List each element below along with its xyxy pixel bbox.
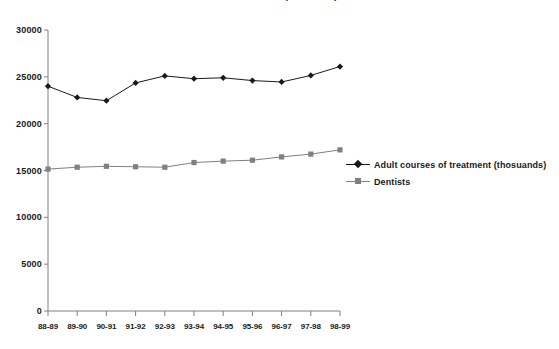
y-axis-tick-label: 0 (37, 306, 42, 316)
chart-legend: Adult courses of treatment (thosuands)De… (346, 157, 556, 191)
x-axis-tick-label: 94-95 (213, 322, 233, 331)
legend-item-2[interactable]: Dentists (346, 174, 556, 189)
plot-area (48, 30, 340, 311)
data-point-marker[interactable] (75, 165, 80, 170)
x-axis-tick-label: 98-99 (330, 322, 350, 331)
data-point-marker[interactable] (191, 160, 196, 165)
x-axis-tick-label: 97-98 (301, 322, 321, 331)
data-point-marker[interactable] (191, 76, 197, 82)
x-axis-tick-label: 96-97 (272, 322, 292, 331)
legend-key-diamond-icon (346, 159, 370, 170)
data-point-marker[interactable] (45, 83, 51, 89)
plot-svg (48, 30, 340, 311)
legend-key-square-icon (346, 176, 370, 187)
legend-key-marker (354, 160, 362, 168)
data-point-marker[interactable] (133, 164, 138, 169)
chart-container: Adult courses of treatment (thousands) a… (0, 0, 559, 349)
chart-title: Adult courses of treatment (thousands) a… (0, 0, 559, 1)
y-axis-tick-label: 5000 (21, 259, 42, 269)
legend-item-1[interactable]: Adult courses of treatment (thosuands) (346, 157, 556, 172)
y-axis-tick-label: 30000 (16, 25, 42, 35)
data-point-marker[interactable] (220, 75, 226, 81)
x-axis-tick-label: 91-92 (126, 322, 146, 331)
legend-label: Dentists (374, 177, 410, 187)
data-point-marker[interactable] (162, 165, 167, 170)
y-axis-tick-labels: 050001000015000200002500030000 (0, 30, 42, 311)
data-point-marker[interactable] (132, 80, 138, 86)
data-point-marker[interactable] (103, 98, 109, 104)
data-point-marker[interactable] (250, 158, 255, 163)
y-axis-tick-label: 25000 (16, 72, 42, 82)
data-point-marker[interactable] (249, 77, 255, 83)
data-point-marker[interactable] (45, 166, 50, 171)
y-axis-tick-label: 20000 (16, 119, 42, 129)
x-axis-tick-label: 93-94 (184, 322, 204, 331)
data-point-marker[interactable] (104, 164, 109, 169)
y-axis-tick-label: 10000 (16, 212, 42, 222)
x-axis-tick-label: 90-91 (96, 322, 116, 331)
legend-label: Adult courses of treatment (thosuands) (374, 160, 546, 170)
x-axis-tick-labels: 88-8989-9090-9191-9292-9393-9494-9595-96… (48, 322, 340, 336)
data-point-marker[interactable] (74, 94, 80, 100)
data-point-marker[interactable] (221, 159, 226, 164)
legend-key-marker (355, 178, 361, 184)
data-point-marker[interactable] (308, 72, 314, 78)
x-axis-tick-label: 88-89 (38, 322, 58, 331)
x-axis-tick-label: 95-96 (242, 322, 262, 331)
x-axis-tick-label: 89-90 (67, 322, 87, 331)
data-point-marker[interactable] (279, 154, 284, 159)
x-axis-tick-label: 92-93 (155, 322, 175, 331)
series-line-2 (48, 150, 340, 169)
data-point-marker[interactable] (308, 152, 313, 157)
series-line-1 (48, 67, 340, 101)
data-point-marker[interactable] (337, 63, 343, 69)
data-point-marker[interactable] (162, 73, 168, 79)
data-point-marker[interactable] (278, 79, 284, 85)
data-point-marker[interactable] (337, 147, 342, 152)
y-axis-tick-label: 15000 (16, 166, 42, 176)
